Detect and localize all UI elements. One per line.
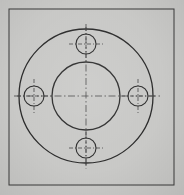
flange-drawing-svg xyxy=(0,0,184,195)
drawing-canvas xyxy=(0,0,184,195)
